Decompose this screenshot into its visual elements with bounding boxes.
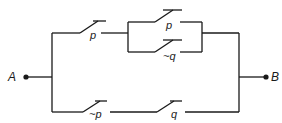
switch-inner-p-label: p [165, 19, 172, 31]
switch-bottom-q-label: q [171, 108, 178, 120]
switch-bottom-q: q [157, 101, 239, 120]
circuit-diagram: A p p ~q B ~p [0, 0, 282, 123]
switch-bottom-not-p: ~p [52, 101, 157, 120]
circuit-svg: A p p ~q B ~p [0, 0, 282, 123]
terminal-b-label: B [271, 70, 279, 84]
switch-top-p: p [52, 21, 128, 41]
switch-top-p-label: p [89, 29, 96, 41]
switch-inner-not-q-label: ~q [163, 50, 176, 62]
switch-inner-p: p [128, 10, 202, 31]
switch-inner-not-q: ~q [128, 40, 202, 62]
switch-bottom-not-p-label: ~p [89, 108, 102, 120]
terminal-b-dot [263, 74, 268, 79]
terminal-a-label: A [7, 70, 16, 84]
